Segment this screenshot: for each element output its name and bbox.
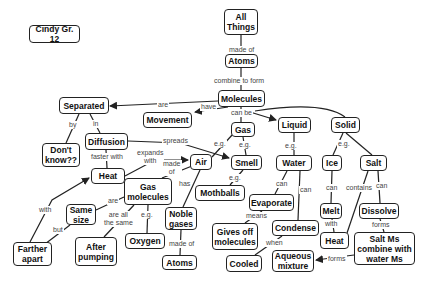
node-dissolve[interactable]: Dissolve [359,203,399,219]
node-condense[interactable]: Condense [272,220,319,236]
node-oxygen[interactable]: Oxygen [125,233,165,249]
link-with-melt: with [324,220,338,228]
link-can-condense: can [299,186,312,194]
node-dont-know[interactable]: Don't know?? [42,143,80,167]
link-are-gas-molecules: are [107,197,119,205]
node-movement[interactable]: Movement [143,112,192,128]
node-molecules[interactable]: Molecules [218,90,265,107]
link-eg-oxygen: e.g. [140,211,154,219]
link-has: has [178,180,191,188]
node-after-pumping[interactable]: After pumping [75,237,117,266]
link-can-melt: can [325,184,338,192]
link-can-be: can be [230,109,253,117]
node-title[interactable]: Cindy Gr. 12 [29,25,80,43]
link-when: when [265,239,284,247]
node-salt[interactable]: Salt [360,155,387,171]
node-heat-right[interactable]: Heat [320,232,349,249]
node-atoms-top[interactable]: Atoms [225,54,258,68]
concept-map: made of combine to form are have can be … [0,0,427,285]
link-means: means [245,212,268,220]
node-atoms-bottom[interactable]: Atoms [162,255,197,270]
node-melt[interactable]: Melt [320,203,342,219]
node-water[interactable]: Water [276,155,312,171]
link-eg-gas-air: e.g. [213,140,227,148]
node-evaporate[interactable]: Evaporate [249,194,294,211]
link-but: but [52,226,64,234]
node-heat-left[interactable]: Heat [91,168,125,184]
link-forms-salt: forms [327,255,347,263]
link-faster-with: faster with [90,153,124,161]
node-salt-ms[interactable]: Salt Ms combine with water Ms [354,232,415,265]
node-liquid[interactable]: Liquid [278,117,311,133]
node-gives-off-molecules[interactable]: Gives off molecules [212,223,258,250]
node-mothballs[interactable]: Mothballs [195,185,245,201]
link-have: have [200,103,217,111]
link-eg-solid: e.g. [337,140,351,148]
node-air[interactable]: Air [190,154,212,170]
node-solid[interactable]: Solid [331,117,360,133]
node-same-size[interactable]: Same size [66,204,96,225]
node-noble-gases[interactable]: Noble gases [165,207,197,230]
link-forms-dissolve: forms [371,221,391,229]
link-in: in [92,120,99,128]
link-by: by [68,121,77,129]
link-are-all-the-same: are all the same [103,211,134,227]
link-are: are [157,101,169,109]
node-cooled[interactable]: Cooled [226,255,262,272]
link-made-of: made of [228,46,255,54]
link-with-farther: with [38,206,52,214]
link-spreads: spreads [162,137,189,145]
link-can-dissolve: can [375,182,388,190]
link-can-evaporate: can [275,180,288,188]
link-made-of-noble: made of [168,240,195,248]
node-gas[interactable]: Gas [231,122,255,137]
node-farther-apart[interactable]: Farther apart [13,242,52,266]
node-aqueous-mixture[interactable]: Aqueous mixture [272,250,314,272]
node-ice[interactable]: Ice [322,155,342,171]
node-gas-molecules[interactable]: Gas molecules [124,178,172,205]
node-all-things[interactable]: All Things [224,9,258,35]
link-eg-liquid: e.g. [284,142,298,150]
link-made-of-air: made of [162,160,182,176]
node-diffusion[interactable]: Diffusion [85,133,128,150]
node-separated[interactable]: Separated [59,97,109,114]
node-smell[interactable]: Smell [231,155,262,170]
link-eg-gas-smell: e.g. [238,141,252,149]
link-eg-smell: e.g. [228,174,242,182]
link-combine-to-form: combine to form [213,77,265,85]
link-expands-with: expands with [136,149,164,165]
link-contains: contains [345,184,373,192]
